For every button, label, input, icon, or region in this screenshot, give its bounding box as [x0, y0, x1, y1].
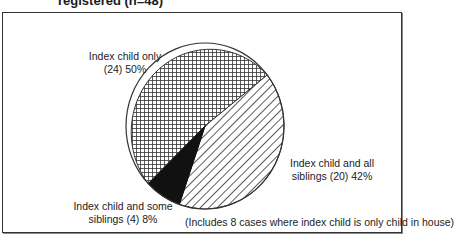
slice-label-index-child-only: Index child only (24) 50%: [80, 50, 170, 76]
slice-label-index-child-and-all-siblings: Index child and all siblings (20) 42%: [282, 157, 382, 183]
slice-label-index-child-and-some-siblings: Index child and some siblings (4) 8%: [68, 200, 178, 226]
chart-annotation: (Includes 8 cases where index child is o…: [185, 216, 454, 228]
